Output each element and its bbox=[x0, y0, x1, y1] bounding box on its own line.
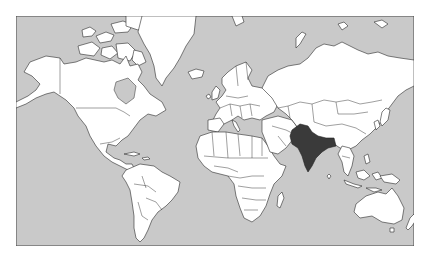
map-canvas bbox=[16, 16, 414, 246]
tasmania bbox=[390, 228, 394, 232]
world-map bbox=[16, 16, 414, 246]
